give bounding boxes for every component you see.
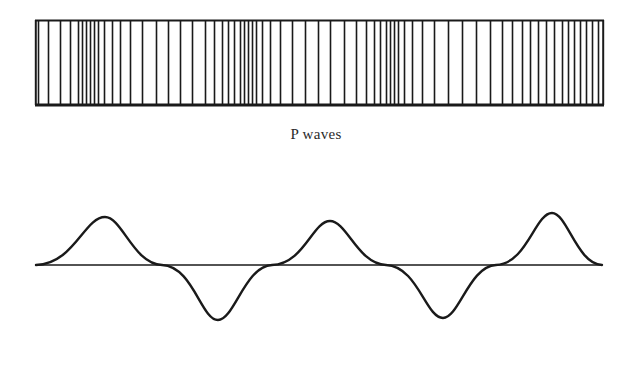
seismic-wave-figure: P waves S waves <box>0 0 632 367</box>
p-waves-caption: P waves <box>0 126 632 143</box>
p-wave-diagram <box>0 0 632 120</box>
s-wave-sine-curve <box>36 213 602 320</box>
p-wave-panel: P waves <box>0 0 632 183</box>
p-wave-compression-lines <box>39 20 599 105</box>
s-wave-panel: S waves <box>0 183 632 367</box>
s-wave-diagram <box>0 183 632 367</box>
